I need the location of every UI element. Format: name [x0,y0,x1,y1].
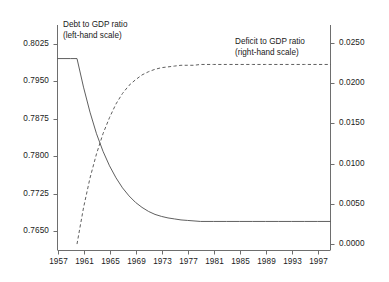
series-line-debt-to-gdp [58,59,331,222]
left-axis-tick-label: 0.7725 [5,189,49,198]
annotation-debt-scale: (left-hand scale) [63,31,127,42]
annotation-deficit-scale: (right-hand scale) [235,48,305,59]
x-axis-ticks [59,251,319,255]
left-axis-tick-label: 0.7875 [5,114,49,123]
annotation-deficit-title: Deficit to GDP ratio [235,37,305,48]
right-axis-tick-label: 0.0050 [339,199,385,208]
left-axis-ticks [54,45,58,232]
left-axis-tick-label: 0.7950 [5,76,49,85]
chart-container: 0.80250.79500.78750.78000.77250.7650 0.0… [0,0,389,282]
left-axis-tick-label: 0.7800 [5,151,49,160]
right-axis-tick-label: 0.0200 [339,78,385,87]
x-axis-tick-label: 1997 [304,257,334,266]
left-axis-tick-label: 0.7650 [5,226,49,235]
right-axis-tick-label: 0.0100 [339,159,385,168]
right-axis-ticks [331,44,335,245]
annotation-deficit-to-gdp: Deficit to GDP ratio (right-hand scale) [235,37,305,58]
right-axis-tick-label: 0.0150 [339,118,385,127]
annotation-debt-title: Debt to GDP ratio [63,20,127,31]
series-line-deficit-to-gdp [77,64,331,244]
chart-plot-svg [0,0,389,282]
annotation-debt-to-gdp: Debt to GDP ratio (left-hand scale) [63,20,127,41]
right-axis-tick-label: 0.0250 [339,38,385,47]
left-axis-tick-label: 0.8025 [5,39,49,48]
right-axis-tick-label: 0.0000 [339,239,385,248]
